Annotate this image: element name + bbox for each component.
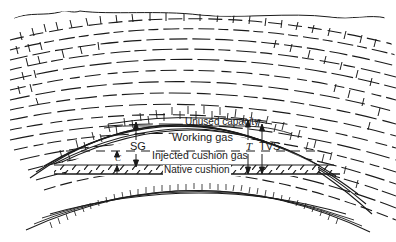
label-t: T [246, 141, 252, 152]
label-unused-capacity: Unused capacity [185, 117, 259, 127]
label-working-gas: Working gas [172, 132, 233, 143]
upper-brick-ticks [16, 13, 380, 130]
label-injected-cushion-gas: Injected cushion gas [152, 150, 248, 161]
base-rock-arch [26, 183, 370, 232]
label-native-cushion: Native cushion [163, 165, 231, 175]
label-tvs: TVS [259, 141, 280, 152]
label-sg: SG [130, 141, 146, 152]
label-c: C [115, 154, 121, 163]
